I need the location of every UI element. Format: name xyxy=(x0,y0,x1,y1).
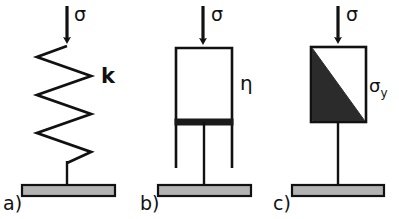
yield-stress-base: σ xyxy=(369,75,380,96)
figure-vector-canvas xyxy=(0,0,399,219)
stress-label-a: σ xyxy=(74,5,86,24)
panel-label-a: a) xyxy=(3,194,22,213)
yield-stress-label-sigma-y: σy xyxy=(369,77,388,99)
ground-plate-b xyxy=(158,185,251,196)
panel-b-dashpot-group xyxy=(158,6,251,196)
stiffness-label-k: k xyxy=(101,66,115,87)
yield-stress-subscript: y xyxy=(380,86,387,100)
rheological-elements-figure: σ k a) σ η b) σ σy c) xyxy=(0,0,399,219)
panel-label-b: b) xyxy=(140,194,159,213)
stress-label-b: σ xyxy=(211,5,223,24)
spring-coil-a xyxy=(37,46,91,163)
panel-a-spring-group xyxy=(22,6,115,196)
stress-label-c: σ xyxy=(346,5,358,24)
ground-plate-c xyxy=(292,185,384,196)
viscosity-label-eta: η xyxy=(240,73,253,93)
panel-c-slider-group xyxy=(292,6,384,196)
panel-label-c: c) xyxy=(273,194,291,213)
ground-plate-a xyxy=(22,185,115,196)
